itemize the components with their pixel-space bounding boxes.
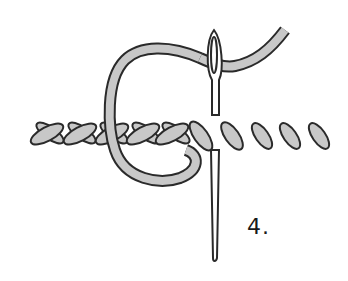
step-number: 4.: [247, 214, 270, 239]
stitch-drawing: [0, 0, 348, 281]
single-stitches: [186, 118, 333, 154]
thread: [110, 30, 285, 181]
stitch-illustration: 4.: [0, 0, 348, 281]
